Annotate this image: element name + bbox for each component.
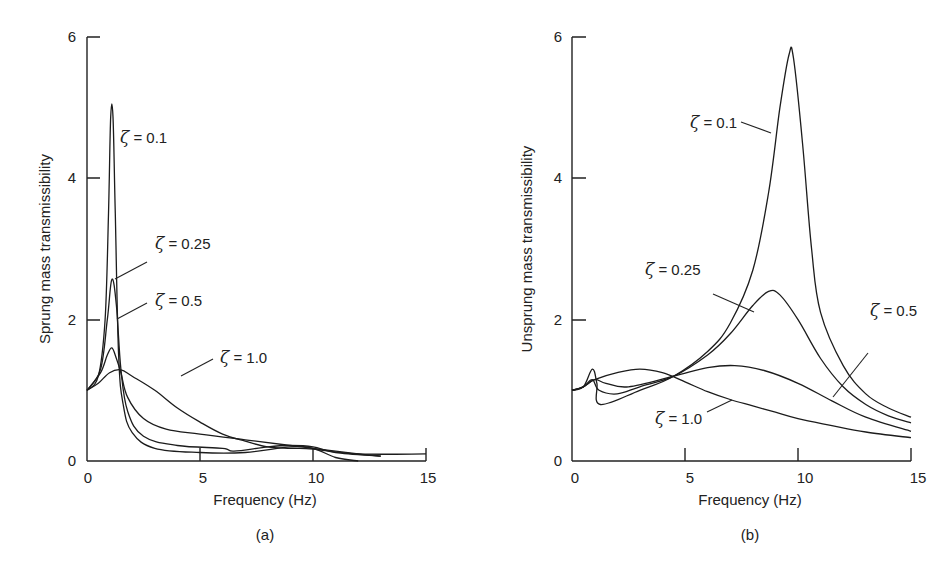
chart-b-x-axis-title: Frequency (Hz) xyxy=(698,491,801,508)
chart-b-series-zeta-1.0 xyxy=(572,369,911,438)
chart-a-ytick-6: 6 xyxy=(68,28,76,45)
chart-a-label-zeta-0.25: ζ = 0.25 xyxy=(155,233,211,253)
chart-b-y-ticks xyxy=(572,37,586,320)
chart-b-label-zeta-0.25: ζ = 0.25 xyxy=(645,259,701,279)
chart-b-ytick-2: 2 xyxy=(554,311,562,328)
chart-b-x-ticks xyxy=(685,448,911,461)
chart-b-label-zeta-0.5: ζ = 0.5 xyxy=(870,300,917,320)
chart-a-y-ticks xyxy=(87,37,100,320)
chart-b-ytick-0: 0 xyxy=(554,452,562,469)
chart-b-series-zeta-0.5 xyxy=(572,365,911,431)
chart-a-y-axis-title: Sprung mass transmissibility xyxy=(36,153,53,344)
chart-a-xtick-10: 10 xyxy=(308,469,325,486)
chart-a-x-axis-title: Frequency (Hz) xyxy=(213,491,316,508)
chart-a-caption: (a) xyxy=(256,526,274,543)
chart-b-leader-0.1 xyxy=(741,122,771,133)
chart-b-curves xyxy=(572,47,911,438)
chart-a-xtick-5: 5 xyxy=(199,469,207,486)
chart-a: 6 4 2 0 0 5 10 15 Frequency (Hz) Sprung … xyxy=(36,28,436,543)
chart-a-series-zeta-0.1 xyxy=(87,104,358,461)
chart-a-leader-0.5 xyxy=(117,303,147,319)
figure: 6 4 2 0 0 5 10 15 Frequency (Hz) Sprung … xyxy=(0,0,947,571)
chart-a-label-zeta-0.5: ζ = 0.5 xyxy=(155,290,202,310)
chart-b-xtick-15: 15 xyxy=(910,469,927,486)
chart-a-label-zeta-1.0: ζ = 1.0 xyxy=(220,347,267,367)
chart-b-y-axis-title: Unsprung mass transmissibility xyxy=(518,145,535,352)
chart-a-ytick-4: 4 xyxy=(68,169,76,186)
chart-b-xtick-5: 5 xyxy=(686,469,694,486)
chart-b-label-zeta-1.0: ζ = 1.0 xyxy=(655,408,702,428)
chart-a-ytick-2: 2 xyxy=(68,311,76,328)
chart-b-leader-1.0 xyxy=(707,400,732,412)
chart-b-ytick-4: 4 xyxy=(554,169,562,186)
chart-b-ytick-6: 6 xyxy=(554,28,562,45)
chart-b-xtick-10: 10 xyxy=(797,469,814,486)
chart-a-series-zeta-0.25 xyxy=(87,279,381,456)
chart-b-label-zeta-0.1: ζ = 0.1 xyxy=(690,112,737,132)
chart-b-xtick-0: 0 xyxy=(571,469,579,486)
chart-a-ytick-0: 0 xyxy=(68,452,76,469)
chart-a-xtick-15: 15 xyxy=(420,469,437,486)
chart-a-label-zeta-0.1: ζ = 0.1 xyxy=(120,127,167,147)
chart-b: 6 4 2 0 0 5 10 15 Frequency (Hz) Unsprun… xyxy=(518,28,926,543)
chart-b-series-zeta-0.1 xyxy=(572,47,911,417)
chart-b-caption: (b) xyxy=(741,526,759,543)
chart-b-leader-0.25 xyxy=(713,294,754,312)
chart-a-xtick-0: 0 xyxy=(84,469,92,486)
chart-a-leader-1.0 xyxy=(181,359,213,376)
chart-a-curves xyxy=(87,104,426,461)
chart-a-leader-0.25 xyxy=(115,262,147,279)
